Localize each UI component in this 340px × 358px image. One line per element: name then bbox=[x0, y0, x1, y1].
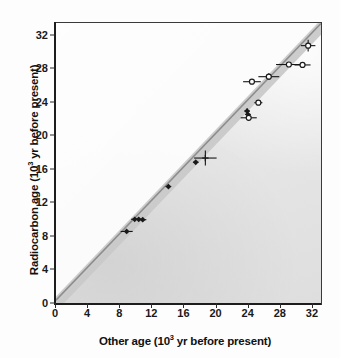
x-axis-title: Other age (103 yr before present) bbox=[40, 333, 330, 347]
x-tick-label-4: 4 bbox=[84, 307, 90, 319]
plot-area bbox=[55, 22, 322, 305]
data-point-open-circle bbox=[300, 62, 305, 67]
y-tick-mark-12 bbox=[50, 202, 55, 203]
one-to-one-band bbox=[56, 23, 321, 304]
data-point-open-circle bbox=[266, 74, 271, 79]
x-axis-title-tail: yr before present) bbox=[174, 335, 271, 347]
x-tick-label-32: 32 bbox=[306, 307, 318, 319]
data-point-open-circle bbox=[246, 115, 251, 120]
figure-container: 048121620242832 048121620242832 Radiocar… bbox=[0, 0, 340, 358]
x-tick-mark-0 bbox=[55, 303, 56, 308]
x-axis-title-main: Other age (10 bbox=[99, 335, 170, 347]
data-point-open-circle bbox=[249, 79, 254, 84]
x-tick-label-28: 28 bbox=[274, 307, 286, 319]
x-tick-label-20: 20 bbox=[209, 307, 221, 319]
y-tick-mark-28 bbox=[50, 68, 55, 69]
data-point-open-circle bbox=[306, 43, 311, 48]
y-axis-title: Radiocarbon age (103 yr before present) bbox=[26, 45, 40, 295]
x-tick-label-24: 24 bbox=[242, 307, 254, 319]
x-tick-mark-12 bbox=[151, 303, 152, 308]
data-point-open-circle bbox=[256, 100, 261, 105]
y-axis-title-exponent: 3 bbox=[26, 162, 35, 166]
y-tick-mark-32 bbox=[50, 34, 55, 35]
y-axis-line bbox=[54, 22, 56, 304]
x-tick-mark-32 bbox=[312, 303, 313, 308]
x-tick-label-16: 16 bbox=[177, 307, 189, 319]
x-tick-label-8: 8 bbox=[116, 307, 122, 319]
x-axis-line bbox=[54, 303, 321, 305]
y-tick-mark-16 bbox=[50, 168, 55, 169]
y-tick-label-32: 32 bbox=[26, 29, 48, 41]
x-tick-mark-28 bbox=[280, 303, 281, 308]
x-tick-mark-24 bbox=[248, 303, 249, 308]
x-tick-label-12: 12 bbox=[145, 307, 157, 319]
y-tick-mark-8 bbox=[50, 235, 55, 236]
y-tick-mark-20 bbox=[50, 135, 55, 136]
x-tick-label-0: 0 bbox=[52, 307, 58, 319]
x-tick-mark-20 bbox=[216, 303, 217, 308]
x-tick-mark-4 bbox=[87, 303, 88, 308]
x-tick-mark-16 bbox=[183, 303, 184, 308]
data-point-open-circle bbox=[286, 62, 291, 67]
y-tick-mark-4 bbox=[50, 269, 55, 270]
y-tick-mark-24 bbox=[50, 101, 55, 102]
y-axis-title-main: Radiocarbon age (10 bbox=[28, 166, 40, 275]
data-layer bbox=[56, 23, 321, 304]
y-axis-title-tail: yr before present) bbox=[28, 65, 40, 162]
y-tick-label-0: 0 bbox=[26, 297, 48, 309]
x-tick-mark-8 bbox=[119, 303, 120, 308]
